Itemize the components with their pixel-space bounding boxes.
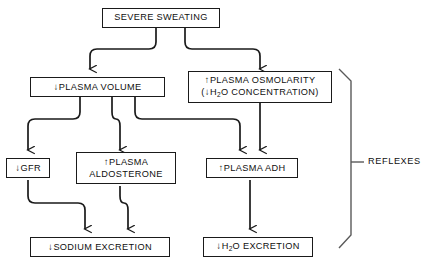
node-water-excretion-line: ↓H2O EXCRETION: [216, 240, 299, 255]
node-gfr-label: GFR: [20, 163, 40, 173]
node-plasma-volume-label: PLASMA VOLUME: [59, 82, 142, 92]
hydrogen-symbol: H: [210, 87, 217, 97]
hydrogen-symbol: H: [222, 241, 229, 251]
node-sodium-excretion[interactable]: ↓SODIUM EXCRETION: [30, 237, 170, 257]
reflexes-label: REFLEXES: [368, 156, 421, 166]
connector-volume-to-aldosterone: [112, 97, 120, 150]
node-plasma-osmolarity-line1: ↑PLASMA OSMOLARITY: [205, 74, 316, 87]
node-plasma-volume[interactable]: ↓PLASMA VOLUME: [30, 77, 165, 97]
node-gfr[interactable]: ↓GFR: [6, 158, 50, 178]
connector-volume-to-gfr: [28, 97, 80, 150]
connector-sweating-to-plasma-volume: [90, 28, 156, 69]
node-sodium-excretion-label: SODIUM EXCRETION: [53, 242, 152, 252]
node-plasma-adh-line: ↑PLASMA ADH: [218, 162, 285, 175]
node-plasma-aldosterone-line2: ALDOSTERONE: [89, 169, 162, 181]
node-severe-sweating[interactable]: SEVERE SWEATING: [102, 8, 220, 28]
node-plasma-aldosterone[interactable]: ↑PLASMA ALDOSTERONE: [76, 152, 176, 184]
node-sodium-excretion-line: ↓SODIUM EXCRETION: [48, 241, 152, 254]
node-plasma-volume-line: ↓PLASMA VOLUME: [54, 81, 142, 94]
flowchart-diagram: SEVERE SWEATING ↓PLASMA VOLUME ↑PLASMA O…: [0, 0, 431, 260]
node-plasma-adh-label: PLASMA ADH: [224, 163, 286, 173]
node-gfr-line: ↓GFR: [15, 162, 41, 175]
water-concentration-label: O CONCENTRATION): [221, 87, 319, 97]
reflexes-bracket: [339, 69, 351, 248]
node-plasma-aldosterone-line1: ↑PLASMA: [104, 156, 149, 169]
node-plasma-osmolarity-line2: (↓H2O CONCENTRATION): [201, 86, 318, 101]
node-severe-sweating-label: SEVERE SWEATING: [114, 12, 207, 24]
connector-aldosterone-to-sodium-excretion: [120, 186, 128, 229]
connector-gfr-to-sodium-excretion: [28, 180, 85, 229]
node-plasma-aldosterone-label: PLASMA: [109, 157, 148, 167]
connector-sweating-to-osmolarity: [185, 28, 260, 69]
node-water-excretion[interactable]: ↓H2O EXCRETION: [203, 237, 313, 257]
node-water-excretion-label: O EXCRETION: [233, 241, 300, 251]
connector-layer: [0, 0, 431, 260]
node-plasma-osmolarity-label: PLASMA OSMOLARITY: [210, 75, 316, 85]
connector-volume-to-adh: [135, 97, 240, 150]
node-plasma-adh[interactable]: ↑PLASMA ADH: [206, 158, 298, 178]
node-plasma-osmolarity[interactable]: ↑PLASMA OSMOLARITY (↓H2O CONCENTRATION): [188, 71, 332, 103]
